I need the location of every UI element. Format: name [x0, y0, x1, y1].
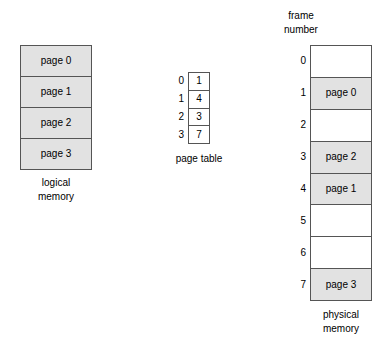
page-table-index: 3 — [170, 126, 184, 144]
frame-index: 1 — [292, 77, 306, 109]
page-table-index: 1 — [170, 90, 184, 108]
frame-index: 5 — [292, 205, 306, 237]
paging-diagram: page 0 page 1 page 2 page 3 logical memo… — [0, 0, 385, 361]
frame-index: 7 — [292, 269, 306, 301]
frame-index: 3 — [292, 141, 306, 173]
page-table-index-column: 0 1 2 3 — [170, 72, 184, 144]
frame-index: 6 — [292, 237, 306, 269]
page-table-entry: 3 — [189, 108, 209, 126]
page-table-entry: 7 — [189, 125, 209, 143]
frame-index: 0 — [292, 45, 306, 77]
page-table-index: 0 — [170, 72, 184, 90]
page-table-index: 2 — [170, 108, 184, 126]
logical-memory-caption: logical memory — [10, 176, 102, 204]
frame-index: 4 — [292, 173, 306, 205]
page-table-entry: 1 — [189, 73, 209, 90]
logical-memory-cell: page 3 — [21, 138, 91, 169]
physical-memory-frame — [311, 236, 371, 268]
physical-memory-frame — [311, 46, 371, 77]
page-table-entry: 4 — [189, 90, 209, 108]
physical-memory-caption: physical memory — [300, 308, 382, 336]
physical-memory-frame: page 1 — [311, 173, 371, 205]
page-table-box: 1 4 3 7 — [188, 72, 210, 144]
logical-memory-cell: page 1 — [21, 76, 91, 107]
logical-memory-box: page 0 page 1 page 2 page 3 — [20, 45, 92, 170]
frame-index: 2 — [292, 109, 306, 141]
physical-memory-frame — [311, 109, 371, 141]
frame-number-header: frame number — [264, 9, 338, 37]
physical-memory-box: page 0 page 2 page 1 page 3 — [310, 45, 372, 301]
page-table-caption: page table — [154, 152, 244, 166]
physical-memory-frame: page 3 — [311, 268, 371, 300]
physical-memory-frame: page 2 — [311, 141, 371, 173]
logical-memory-cell: page 2 — [21, 107, 91, 138]
physical-memory-frame — [311, 204, 371, 236]
logical-memory-cell: page 0 — [21, 46, 91, 76]
frame-index-column: 0 1 2 3 4 5 6 7 — [292, 45, 306, 301]
physical-memory-frame: page 0 — [311, 77, 371, 109]
